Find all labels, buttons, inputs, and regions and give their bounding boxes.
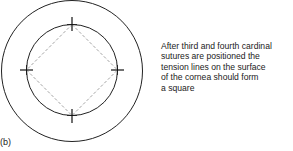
inner-circle-cornea bbox=[27, 25, 118, 116]
figure-caption: After third and fourth cardinal sutures … bbox=[161, 41, 293, 93]
caption-line: tension lines on the surface bbox=[161, 62, 293, 72]
caption-line: a square bbox=[161, 83, 293, 93]
caption-line: sutures are positioned the bbox=[161, 51, 293, 61]
caption-line: After third and fourth cardinal bbox=[161, 41, 293, 51]
panel-label: (b) bbox=[0, 137, 11, 147]
suture-right bbox=[111, 65, 124, 75]
suture-top bbox=[67, 17, 77, 31]
suture-left bbox=[20, 65, 33, 75]
suture-bottom bbox=[67, 109, 77, 123]
cornea-suture-diagram bbox=[0, 0, 150, 151]
caption-line: of the cornea should form bbox=[161, 72, 293, 82]
